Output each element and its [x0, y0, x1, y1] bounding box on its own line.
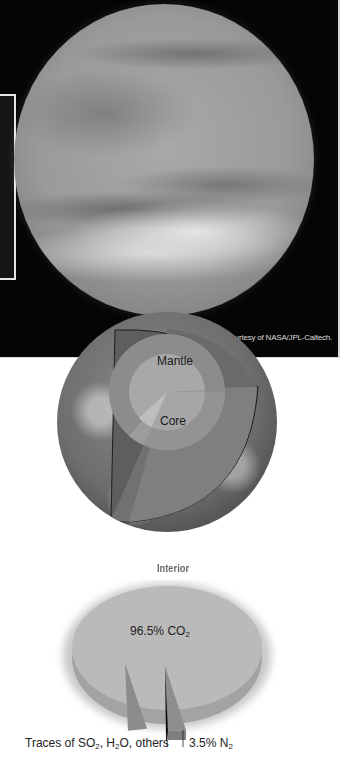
traces-label: Traces of SO2, H2O, others	[25, 736, 169, 751]
venus-planet-image	[14, 4, 314, 316]
n2-label: 3.5% N2	[189, 736, 233, 751]
core-label: Core	[160, 414, 186, 428]
inset-frame	[0, 94, 16, 280]
atmosphere-pie-chart: 96.5% CO2 3.5% N2 Traces of SO2, H2O, ot…	[0, 580, 346, 776]
mantle-label: Mantle	[157, 354, 193, 368]
co2-label: 96.5% CO2	[130, 624, 190, 639]
interior-globe: Mantle Core	[57, 312, 277, 532]
interior-caption: Interior	[26, 562, 320, 574]
venus-photo: Courtesy of NASA/JPL-Caltech.	[0, 0, 340, 358]
